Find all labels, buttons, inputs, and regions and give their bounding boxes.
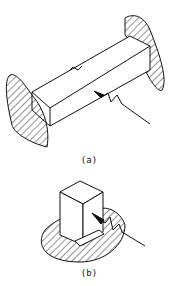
left-support bbox=[6, 75, 47, 147]
panel-b-label: (b) bbox=[69, 268, 109, 278]
panel-a-label: (a) bbox=[69, 155, 109, 165]
figure-diagram bbox=[0, 0, 178, 286]
weld-arrow bbox=[95, 92, 150, 124]
panel-b-drawing bbox=[41, 181, 145, 262]
beam bbox=[32, 36, 150, 126]
panel-a-drawing bbox=[6, 16, 164, 147]
